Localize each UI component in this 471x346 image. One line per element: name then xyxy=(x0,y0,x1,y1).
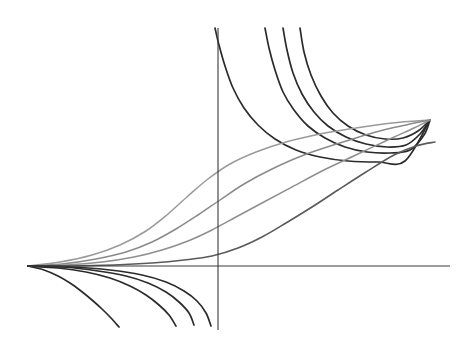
figure-canvas xyxy=(0,0,471,346)
plot-background xyxy=(0,0,471,346)
curve-family-plot xyxy=(0,0,471,346)
